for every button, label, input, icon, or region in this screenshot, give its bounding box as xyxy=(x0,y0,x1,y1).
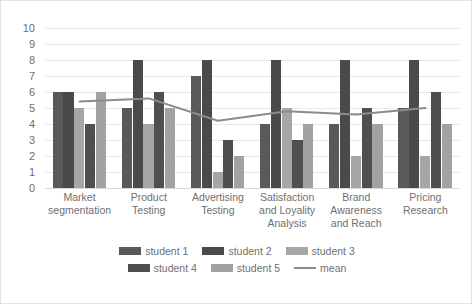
chart-container: 109876543210 MarketsegmentationProductTe… xyxy=(0,0,472,304)
legend-row: student 4student 5mean xyxy=(128,263,347,274)
legend-item-student-4[interactable]: student 4 xyxy=(128,263,197,274)
mean-line-path xyxy=(80,98,426,120)
legend-swatch-icon xyxy=(294,267,316,269)
plot-area xyxy=(45,28,460,188)
x-tick-label: Satisfactionand LoyalityAnalysis xyxy=(253,191,322,230)
legend-label: student 5 xyxy=(237,263,280,274)
x-tick-label-line: Analysis xyxy=(253,217,322,230)
y-tick-label-9: 9 xyxy=(29,39,35,50)
x-tick-label-line: and Reach xyxy=(322,217,391,230)
x-tick-label-line: Product xyxy=(114,191,183,204)
legend-label: student 2 xyxy=(228,246,271,257)
x-tick-label: PricingResearch xyxy=(391,191,460,217)
legend-item-mean[interactable]: mean xyxy=(294,263,346,274)
y-tick-label-7: 7 xyxy=(29,71,35,82)
y-tick-label-0: 0 xyxy=(29,183,35,194)
y-tick-label-10: 10 xyxy=(23,23,35,34)
x-tick-label: BrandAwarenessand Reach xyxy=(322,191,391,230)
y-tick-label-5: 5 xyxy=(29,103,35,114)
x-tick-label: Marketsegmentation xyxy=(45,191,114,217)
legend-item-student-5[interactable]: student 5 xyxy=(211,263,280,274)
legend-label: student 1 xyxy=(145,246,188,257)
legend-item-student-1[interactable]: student 1 xyxy=(119,246,188,257)
x-tick-label-line: Brand xyxy=(322,191,391,204)
x-tick-label-line: Testing xyxy=(183,204,252,217)
chart-legend: student 1student 2student 3student 4stud… xyxy=(1,246,472,273)
x-tick-label-line: Research xyxy=(391,204,460,217)
legend-label: mean xyxy=(320,263,346,274)
legend-swatch-icon xyxy=(286,247,308,255)
x-axis: MarketsegmentationProductTestingAdvertis… xyxy=(45,191,460,237)
gridline-0 xyxy=(45,188,460,189)
y-tick-label-2: 2 xyxy=(29,151,35,162)
mean-line-svg xyxy=(45,28,460,188)
x-tick-label-line: Advertising xyxy=(183,191,252,204)
legend-swatch-icon xyxy=(202,247,224,255)
legend-label: student 3 xyxy=(312,246,355,257)
legend-item-student-3[interactable]: student 3 xyxy=(286,246,355,257)
legend-item-student-2[interactable]: student 2 xyxy=(202,246,271,257)
legend-label: student 4 xyxy=(154,263,197,274)
y-tick-label-6: 6 xyxy=(29,87,35,98)
x-tick-label-line: Pricing xyxy=(391,191,460,204)
x-tick-label-line: Satisfaction xyxy=(253,191,322,204)
legend-swatch-icon xyxy=(119,247,141,255)
y-tick-label-8: 8 xyxy=(29,55,35,66)
mean-line-layer xyxy=(45,28,460,188)
y-tick-label-1: 1 xyxy=(29,167,35,178)
legend-swatch-icon xyxy=(211,264,233,272)
legend-swatch-icon xyxy=(128,264,150,272)
legend-row: student 1student 2student 3 xyxy=(119,246,355,257)
x-tick-label: AdvertisingTesting xyxy=(183,191,252,217)
y-tick-label-4: 4 xyxy=(29,119,35,130)
x-tick-label-line: Awareness xyxy=(322,204,391,217)
x-tick-label-line: segmentation xyxy=(45,204,114,217)
y-axis: 109876543210 xyxy=(1,28,41,188)
y-tick-label-3: 3 xyxy=(29,135,35,146)
x-tick-label-line: and Loyality xyxy=(253,204,322,217)
x-tick-label: ProductTesting xyxy=(114,191,183,217)
x-tick-label-line: Testing xyxy=(114,204,183,217)
x-tick-label-line: Market xyxy=(45,191,114,204)
